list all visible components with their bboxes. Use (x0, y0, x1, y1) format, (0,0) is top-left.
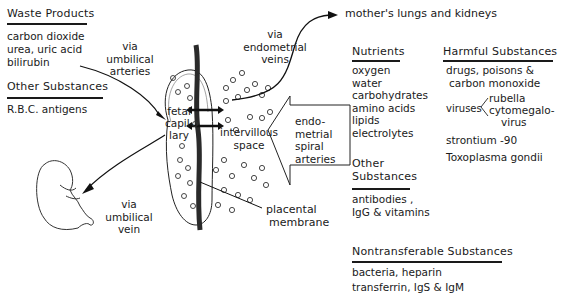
mothers-lungs-kidneys-label: mother's lungs and kidneys (345, 8, 497, 21)
nontransferable-list: bacteria, heparin transferrin, IgS & IgM (352, 266, 464, 293)
nutrient-item: electrolytes (352, 127, 428, 140)
fetal-capillary-label: fetal capil- lary (165, 105, 193, 141)
via-umbilical-arteries-label: via umbilical arteries (105, 40, 155, 78)
other-substances-left-rule (7, 97, 103, 99)
via-endometrial-veins-label: via endometrial veins (240, 28, 310, 66)
other-substances-mid-rule (352, 188, 410, 190)
viruses-label: viruses (446, 103, 482, 116)
strontium-item: strontium -90 (446, 134, 517, 147)
other-substances-mid-list: antibodies , IgG & vitamins (352, 193, 430, 218)
harmful-substances-rule (443, 60, 553, 62)
waste-item: urea, uric acid (7, 43, 82, 56)
placental-membrane-wall (196, 45, 200, 230)
other-substance-item: R.B.C. antigens (7, 103, 87, 116)
nontransferable-rule (352, 261, 502, 263)
harmful-substances-heading: Harmful Substances (443, 45, 557, 58)
nutrients-list: oxygen water carbohydrates amino acids l… (352, 64, 428, 139)
nutrient-item: oxygen (352, 64, 428, 77)
endometrial-spiral-arteries-label: endo- metrial spiral arteries (295, 115, 336, 165)
toxoplasma-item: Toxoplasma gondii (446, 151, 543, 164)
nutrient-item: carbohydrates (352, 89, 428, 102)
waste-item: bilirubin (7, 56, 50, 69)
nontransferable-heading: Nontransferable Substances (352, 245, 513, 258)
nutrient-item: lipids (352, 114, 428, 127)
fetus-illustration (37, 161, 94, 230)
nutrients-rule (352, 60, 400, 62)
nutrient-item: water (352, 77, 428, 90)
waste-item: carbon dioxide (7, 30, 85, 43)
other-substances-mid-heading: Other Substances (352, 157, 417, 183)
via-umbilical-vein-label: via umbilical vein (104, 198, 154, 236)
nutrients-heading: Nutrients (352, 45, 405, 58)
placental-membrane-label: placental membrane (266, 204, 329, 229)
virus-list: rubella cytomegalo- virus (489, 92, 555, 128)
nutrient-item: amino acids (352, 102, 428, 115)
waste-products-rule (7, 23, 87, 25)
intervillous-space-label: intervillous space (218, 126, 280, 151)
waste-products-heading: Waste Products (7, 7, 95, 20)
other-substances-left-heading: Other Substances (7, 80, 108, 93)
harmful-list: drugs, poisons & carbon monoxide (446, 64, 540, 89)
